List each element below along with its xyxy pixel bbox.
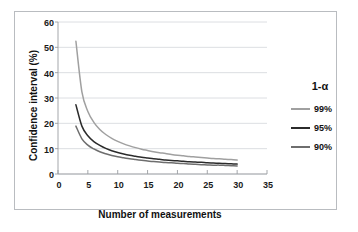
chart-plot-canvas xyxy=(0,0,358,232)
chart-gridlines xyxy=(58,22,267,174)
chart-series-lines xyxy=(76,41,237,166)
series-line-95% xyxy=(76,105,237,164)
series-line-99% xyxy=(76,41,237,160)
